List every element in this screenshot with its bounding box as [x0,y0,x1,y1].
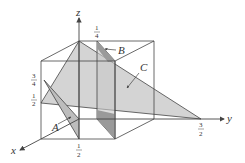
svg-text:4: 4 [95,32,99,40]
cube-planes-diagram: z y x 1 4 3 4 1 2 1 2 3 2 B [0,0,245,163]
tick-z-half: 1 2 [31,92,37,108]
svg-text:4: 4 [32,80,36,88]
x-axis-label: x [10,144,16,156]
plane-b-bottom-shade [97,110,115,139]
tick-y-three-halves: 3 2 [198,121,204,138]
tick-z-quarter: 1 4 [94,24,100,40]
y-axis-label: y [226,112,232,124]
svg-text:3: 3 [32,72,36,80]
plane-b-label: B [118,44,125,56]
svg-text:1: 1 [77,142,81,150]
tick-x-half: 1 2 [76,142,82,159]
plane-b-pointer [105,49,116,50]
svg-text:1: 1 [32,92,36,100]
tick-z-three-quarters: 3 4 [31,72,37,88]
svg-text:2: 2 [199,130,203,138]
svg-text:3: 3 [199,121,203,129]
svg-text:2: 2 [77,151,81,159]
x-axis [20,119,79,150]
plane-a-label: A [51,121,59,133]
plane-c-label: C [140,61,148,73]
svg-text:1: 1 [95,24,99,32]
z-axis-label: z [75,6,81,18]
svg-text:2: 2 [32,100,36,108]
